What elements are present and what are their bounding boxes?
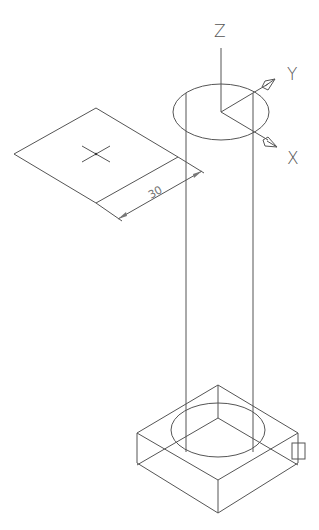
z-axis-label: Z: [214, 21, 226, 41]
dimension-arrow-icon: [118, 212, 127, 219]
x-axis-arrow-icon: [263, 137, 277, 147]
cad-viewport[interactable]: 30 Z Y X: [0, 0, 319, 530]
cylinder[interactable]: [173, 84, 269, 452]
y-axis-label: Y: [287, 64, 297, 84]
base-box[interactable]: [137, 385, 305, 513]
dimension-value: 30: [146, 183, 165, 201]
y-axis-arrow-icon: [262, 79, 275, 90]
dimension-annotation[interactable]: 30: [96, 157, 204, 221]
dimension-arrow-icon: [193, 171, 202, 178]
x-axis-label: X: [287, 148, 299, 168]
ucs-icon: Z Y X: [214, 21, 299, 168]
crosshair-icon: [82, 146, 110, 162]
